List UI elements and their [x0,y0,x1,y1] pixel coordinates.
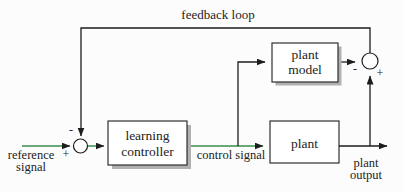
plant-label: plant [291,136,318,151]
control-branch-wire [238,62,265,146]
reference-signal-label-line2: signal [16,160,46,174]
diagram-canvas: - + - + learning controller plant model … [0,0,404,192]
right-junction-minus-sign: - [353,62,357,76]
feedback-loop-label: feedback loop [181,7,254,22]
learning-controller-label-line2: controller [121,144,174,159]
control-signal-label: control signal [197,148,266,162]
plant-model-label-line2: model [288,62,322,77]
left-summing-junction [74,139,88,153]
plant-output-label-line2: output [350,168,382,182]
right-summing-junction [362,53,378,69]
plant-model-label-line1: plant [292,47,319,62]
left-junction-plus-sign: + [63,147,70,161]
left-junction-minus-sign: - [69,123,73,137]
block-diagram: - + - + learning controller plant model … [0,0,404,192]
plant-model-block: plant model [272,43,342,86]
plant-block: plant [270,121,339,163]
right-junction-plus-sign: + [377,66,384,80]
learning-controller-block: learning controller [108,121,191,169]
learning-controller-label-line1: learning [125,128,169,143]
